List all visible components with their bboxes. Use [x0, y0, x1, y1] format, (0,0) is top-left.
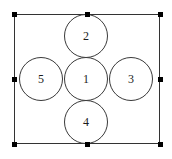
- selection-handle-top-right[interactable]: [158, 12, 163, 17]
- selection-handle-top-left[interactable]: [12, 12, 17, 17]
- selection-handle-middle-right[interactable]: [158, 77, 163, 82]
- selection-handle-bottom-left[interactable]: [12, 142, 17, 147]
- selection-handle-middle-left[interactable]: [12, 77, 17, 82]
- circle-label: 4: [83, 116, 89, 128]
- circle-node-right[interactable]: 3: [109, 57, 153, 101]
- selection-handle-top-center[interactable]: [85, 12, 90, 17]
- circle-node-bottom[interactable]: 4: [64, 100, 108, 144]
- circle-label: 3: [128, 73, 134, 85]
- circle-label: 5: [38, 73, 44, 85]
- circle-node-left[interactable]: 5: [19, 57, 63, 101]
- circle-node-top[interactable]: 2: [64, 14, 108, 58]
- diagram-canvas: 12345: [0, 0, 172, 159]
- selection-handle-bottom-right[interactable]: [158, 142, 163, 147]
- circle-node-center[interactable]: 1: [64, 57, 108, 101]
- circle-label: 2: [83, 30, 89, 42]
- circle-label: 1: [83, 73, 89, 85]
- selection-handle-bottom-center[interactable]: [85, 142, 90, 147]
